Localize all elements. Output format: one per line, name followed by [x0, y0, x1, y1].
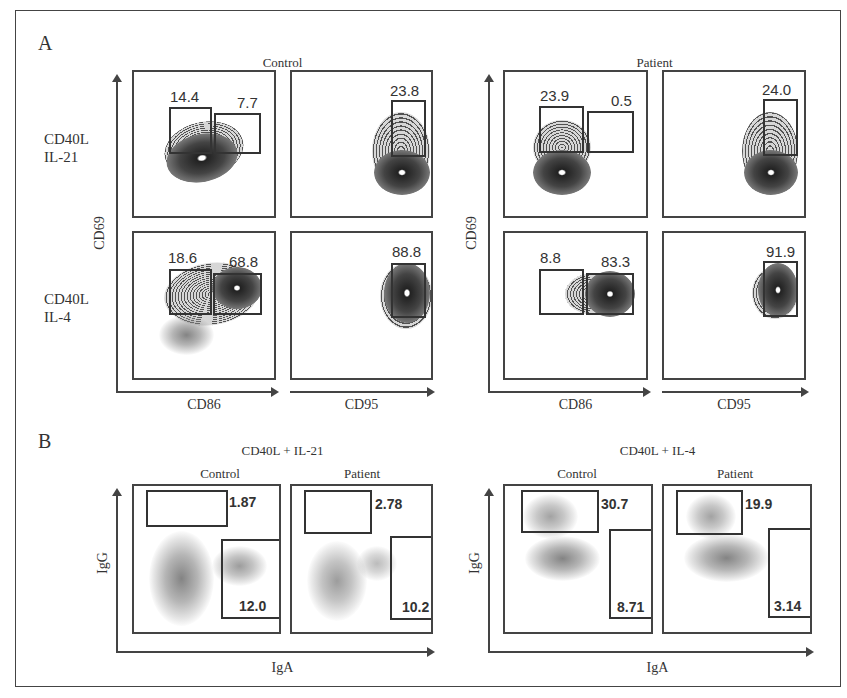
- x-axis-label-iga: IgA: [503, 660, 812, 676]
- contour-plot-control-il21-cd95: 23.8: [290, 70, 433, 218]
- row-label-line: IL-21: [44, 148, 89, 166]
- row-label-line: CD40L: [44, 290, 89, 308]
- y-axis-arrow: [116, 76, 118, 391]
- y-axis-arrow: [488, 490, 490, 651]
- y-axis-label-igg: IgG: [95, 548, 111, 578]
- contour-plot-control-il4-cd86: 18.6 68.8: [132, 231, 276, 380]
- contour-plot-patient-il4-cd95: 91.9: [662, 231, 806, 380]
- y-axis-arrow: [116, 490, 118, 651]
- dot-plot-il4-patient: 19.9 3.14: [662, 484, 812, 634]
- gate-cd86hi: [214, 113, 261, 154]
- gate-cd86hi: [587, 111, 634, 153]
- contour-core: [744, 150, 798, 195]
- x-axis-arrow: [290, 391, 433, 393]
- gate-value: 1.87: [229, 494, 256, 510]
- x-axis-label-cd95: CD95: [290, 397, 433, 413]
- scatter-dots: [159, 315, 214, 355]
- gate-value: 91.9: [766, 243, 795, 260]
- y-axis-arrow: [488, 76, 490, 391]
- gate-cd95pos: [763, 261, 798, 317]
- gate-value: 88.8: [392, 243, 421, 260]
- gate-value: 83.3: [601, 253, 630, 270]
- y-axis-label-cd69: CD69: [92, 213, 108, 253]
- x-axis-label-cd86: CD86: [132, 397, 276, 413]
- gate-value: 8.8: [540, 249, 561, 266]
- panel-b-il4-patient-subtitle: Patient: [695, 466, 775, 482]
- gate-value: 8.71: [617, 599, 644, 615]
- scatter-dots: [525, 536, 600, 581]
- panel-a-patient-title: Patient: [503, 55, 806, 71]
- gate-cd95pos: [763, 99, 798, 156]
- panel-b-il4-title: CD40L + IL-4: [503, 443, 812, 459]
- gate-value: 19.9: [745, 496, 772, 512]
- gate-value: 30.7: [601, 496, 628, 512]
- panel-b-label: B: [38, 430, 51, 453]
- gate-value: 10.2: [402, 599, 429, 615]
- gate-value: 2.78: [375, 496, 402, 512]
- gate-cd95pos: [391, 100, 426, 157]
- contour-plot-patient-il21-cd86: 23.9 0.5: [503, 70, 648, 218]
- gate-value: 23.8: [390, 82, 419, 99]
- panel-a-label: A: [38, 32, 52, 55]
- row-label-il21: CD40L IL-21: [44, 130, 89, 166]
- gate-cd86hi: [586, 273, 634, 315]
- gate-value: 68.8: [229, 253, 258, 270]
- gate-igg: [521, 490, 599, 533]
- x-axis-label-cd86: CD86: [503, 397, 648, 413]
- x-axis-arrow: [116, 651, 433, 653]
- x-axis-label-cd95: CD95: [662, 397, 806, 413]
- scatter-dots: [149, 531, 214, 626]
- gate-igg: [304, 490, 372, 534]
- gate-value: 3.14: [774, 598, 801, 614]
- contour-plot-patient-il4-cd86: 8.8 83.3: [503, 231, 648, 380]
- gate-value: 7.7: [237, 94, 258, 111]
- gate-cd86hi: [213, 273, 262, 315]
- gate-value: 23.9: [540, 87, 569, 104]
- gate-igg: [146, 490, 228, 527]
- row-label-line: CD40L: [44, 130, 89, 148]
- panel-b-il21-title: CD40L + IL-21: [132, 443, 433, 459]
- gate-value: 0.5: [611, 92, 632, 109]
- gate-cd95pos: [391, 263, 426, 318]
- x-axis-arrow: [488, 651, 812, 653]
- panel-a-control-title: Control: [132, 55, 433, 71]
- scatter-dots: [307, 541, 367, 621]
- dot-plot-il21-patient: 2.78 10.2: [290, 484, 433, 634]
- contour-plot-patient-il21-cd95: 24.0: [662, 70, 806, 218]
- x-axis-arrow: [662, 391, 807, 393]
- row-label-line: IL-4: [44, 308, 89, 326]
- gate-cd86lo: [169, 269, 212, 315]
- panel-b-il4-control-subtitle: Control: [537, 466, 617, 482]
- contour-plot-control-il4-cd95: 88.8: [290, 231, 433, 380]
- gate-value: 12.0: [239, 598, 266, 614]
- gate-value: 14.4: [170, 88, 199, 105]
- scatter-dots: [684, 534, 769, 582]
- contour-core: [533, 150, 591, 195]
- gate-value: 24.0: [762, 81, 791, 98]
- contour-plot-control-il21-cd86: 14.4 7.7: [132, 70, 276, 218]
- row-label-il4: CD40L IL-4: [44, 290, 89, 326]
- x-axis-arrow: [488, 391, 649, 393]
- gate-value: 18.6: [168, 249, 197, 266]
- x-axis-label-iga: IgA: [132, 660, 433, 676]
- panel-b-il21-patient-subtitle: Patient: [322, 466, 402, 482]
- y-axis-label-cd69: CD69: [464, 213, 480, 253]
- panel-b-il21-control-subtitle: Control: [180, 466, 260, 482]
- dot-plot-il4-control: 30.7 8.71: [503, 484, 653, 634]
- gate-igg: [676, 490, 743, 535]
- x-axis-arrow: [116, 391, 277, 393]
- dot-plot-il21-control: 1.87 12.0: [132, 484, 281, 634]
- y-axis-label-igg: IgG: [467, 548, 483, 578]
- gate-cd86lo: [539, 106, 584, 153]
- gate-cd86lo: [169, 107, 212, 154]
- gate-cd86lo: [539, 269, 584, 315]
